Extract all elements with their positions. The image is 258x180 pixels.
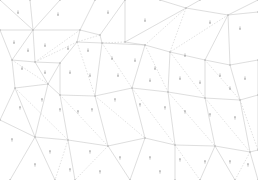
arrow-up-icon: [229, 160, 231, 164]
mesh-edge-dashed: [205, 60, 240, 100]
mesh-vertex: [124, 41, 126, 43]
mesh-vertex: [229, 64, 231, 66]
mesh-edges-dashed: [12, 8, 258, 180]
mesh-vertex: [14, 87, 16, 89]
arrow-up-icon: [91, 108, 93, 112]
mesh-edge-dashed: [75, 146, 108, 180]
arrow-up-icon: [119, 156, 121, 160]
mesh-vertex: [32, 29, 34, 31]
mesh-edge: [168, 52, 170, 92]
mesh-edge: [230, 65, 240, 100]
mesh-edge: [215, 146, 235, 180]
mesh-vertex: [239, 99, 241, 101]
arrow-down-icon: [57, 12, 59, 16]
mesh-edge-dashed: [240, 100, 258, 150]
mesh-vertex: [67, 139, 69, 141]
mesh-vertex: [76, 41, 78, 43]
mesh-edge: [30, 0, 33, 30]
arrow-down-icon: [107, 10, 109, 14]
arrow-up-icon: [139, 103, 141, 107]
mesh-edge: [48, 84, 60, 95]
mesh-vertex: [257, 0, 258, 1]
arrow-down-icon: [134, 58, 136, 62]
mesh-edge: [15, 84, 48, 88]
mesh-edge: [168, 92, 205, 98]
mesh-edge: [80, 0, 95, 30]
mesh-edge: [12, 60, 35, 62]
arrow-up-icon: [11, 138, 13, 142]
arrow-down-icon: [244, 76, 246, 80]
arrow-up-icon: [204, 160, 206, 164]
mesh-edge-dashed: [145, 45, 168, 92]
arrow-down-icon: [239, 26, 241, 30]
arrow-down-icon: [87, 48, 89, 52]
mesh-edge: [48, 63, 60, 84]
mesh-vertex: [227, 14, 229, 16]
arrow-down-icon: [69, 70, 71, 74]
mesh-vertex: [29, 0, 31, 1]
mesh-edge-dashed: [145, 8, 186, 45]
mesh-edge: [12, 30, 33, 60]
arrow-down-icon: [111, 56, 113, 60]
mesh-edge: [33, 0, 60, 30]
mesh-vertex: [34, 136, 36, 138]
mesh-edge: [132, 88, 168, 92]
mesh-vertex: [204, 59, 206, 61]
mesh-edge: [250, 150, 258, 152]
mesh-vertex: [59, 62, 61, 64]
mesh-edges-solid: [0, 0, 258, 180]
arrow-down-icon: [199, 80, 201, 84]
mesh-vertex: [79, 29, 81, 31]
mesh-vertex: [11, 59, 13, 61]
mesh-edge: [100, 35, 102, 43]
arrow-down-icon: [89, 73, 91, 77]
mesh-vertex: [159, 0, 161, 1]
mesh-vertex: [174, 179, 176, 180]
mesh-edge-dashed: [102, 43, 132, 88]
mesh-edge: [186, 8, 228, 15]
mesh-vertex: [257, 11, 258, 13]
mesh-edge: [108, 138, 145, 146]
mesh-edge: [240, 100, 250, 152]
mesh-edge: [170, 52, 205, 60]
mesh-edge-dashed: [12, 60, 48, 84]
mesh-vertex: [257, 94, 258, 96]
arrow-up-icon: [159, 170, 161, 174]
mesh-vertex: [94, 95, 96, 97]
arrow-up-icon: [69, 168, 71, 172]
mesh-edge: [80, 30, 100, 35]
arrow-up-icon: [41, 98, 43, 102]
arrow-up-icon: [209, 113, 211, 117]
mesh-edge: [15, 88, 35, 137]
mesh-edge-dashed: [35, 30, 80, 62]
arrow-up-icon: [164, 106, 166, 110]
arrow-up-icon: [114, 98, 116, 102]
mesh-edge: [240, 95, 258, 100]
vector-field-arrows: [11, 10, 249, 173]
mesh-vertex: [257, 59, 258, 61]
mesh-vertex: [257, 179, 258, 180]
arrow-down-icon: [209, 20, 211, 24]
mesh-edge-dashed: [35, 42, 77, 62]
mesh-vertex: [74, 179, 76, 180]
arrow-down-icon: [67, 46, 69, 50]
mesh-edge: [95, 96, 108, 146]
arrow-up-icon: [247, 163, 249, 167]
arrow-down-icon: [149, 78, 151, 82]
arrow-up-icon: [19, 106, 21, 110]
mesh-edge: [68, 140, 108, 146]
mesh-edge-dashed: [175, 145, 200, 180]
arrow-down-icon: [117, 73, 119, 77]
mesh-edge-dashed: [170, 15, 228, 52]
mesh-edge: [130, 138, 145, 180]
mesh-vertex: [101, 42, 103, 44]
mesh-edge: [175, 145, 215, 146]
mesh-vertex: [107, 145, 109, 147]
mesh-edge: [35, 84, 48, 137]
mesh-vertex: [199, 0, 201, 1]
mesh-edge: [35, 137, 68, 140]
mesh-edge: [77, 42, 102, 43]
mesh-edge: [108, 146, 130, 180]
mesh-edge-dashed: [55, 140, 68, 180]
arrow-down-icon: [27, 48, 29, 52]
